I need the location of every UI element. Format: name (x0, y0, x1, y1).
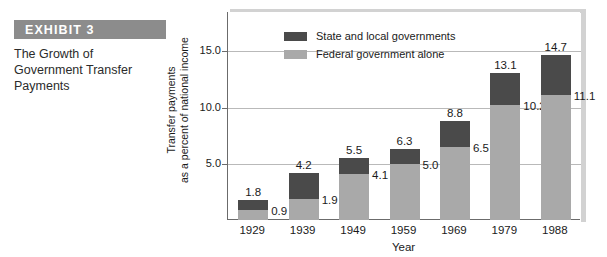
bar-total-label: 1.8 (245, 186, 261, 198)
bar-total-label: 6.3 (397, 135, 413, 147)
bar-segment-federal (490, 105, 520, 220)
bar-segment-state-local (339, 158, 369, 174)
y-axis-title: Transfer payments as a percent of nation… (176, 40, 177, 180)
bar-federal-label: 1.9 (322, 194, 338, 206)
bar-federal-label: 5.0 (423, 159, 439, 171)
bar-group: 8.86.5 (440, 121, 470, 220)
x-axis-tick-labels: 1929193919491959196919791988 (227, 224, 580, 240)
bar-total-label: 8.8 (447, 107, 463, 119)
panel-shadow-right (581, 9, 586, 222)
bar-segment-state-local (490, 73, 520, 106)
bar-group: 4.21.9 (289, 173, 319, 220)
x-axis-tick-label: 1988 (542, 224, 568, 236)
y-axis-tick-label: 5.0 (206, 157, 221, 169)
bar-federal-label: 6.5 (473, 142, 489, 154)
exhibit-caption-block: EXHIBIT 3 The Growth of Government Trans… (14, 20, 184, 94)
bar-segment-federal (238, 210, 268, 220)
bar-federal-label: 0.9 (271, 205, 287, 217)
bar-group: 13.110.2 (490, 73, 520, 220)
exhibit-banner: EXHIBIT 3 (14, 20, 166, 39)
x-axis-tick-label: 1979 (492, 224, 518, 236)
exhibit-caption-text: The Growth of Government Transfer Paymen… (14, 46, 184, 94)
y-axis-tick-label: 10.0 (200, 101, 221, 113)
bar-segment-state-local (238, 200, 268, 210)
caption-line-1: The Growth of (14, 46, 184, 62)
bar-group: 14.711.1 (541, 55, 571, 220)
y-axis-title-line-1: Transfer payments (164, 37, 177, 183)
bar-segment-federal (339, 174, 369, 220)
x-axis-tick-label: 1949 (340, 224, 366, 236)
exhibit-figure: EXHIBIT 3 The Growth of Government Trans… (0, 0, 607, 257)
bar-segment-federal (541, 95, 571, 220)
bar-segment-state-local (541, 55, 571, 95)
bar-segment-state-local (390, 149, 420, 164)
bar-group: 1.80.9 (238, 200, 268, 220)
x-axis-title: Year (227, 241, 580, 253)
bar-federal-label: 11.1 (574, 90, 596, 102)
bar-segment-state-local (289, 173, 319, 199)
x-axis-tick-label: 1969 (441, 224, 467, 236)
chart-plot-area: State and local governments Federal gove… (227, 12, 580, 220)
y-axis-tick-label: 15.0 (200, 44, 221, 56)
bars-layer: 1.80.94.21.95.54.16.35.08.86.513.110.214… (228, 12, 581, 220)
bar-segment-federal (390, 164, 420, 220)
x-axis-tick-label: 1959 (391, 224, 417, 236)
bar-segment-federal (440, 147, 470, 220)
x-axis-tick-label: 1939 (290, 224, 316, 236)
caption-line-3: Payments (14, 78, 184, 94)
exhibit-banner-label: EXHIBIT 3 (25, 23, 95, 37)
bar-total-label: 5.5 (346, 144, 362, 156)
bar-total-label: 13.1 (494, 59, 516, 71)
y-axis-tick-labels: 5.010.015.0 (188, 12, 221, 220)
bar-segment-state-local (440, 121, 470, 147)
x-axis-tick-label: 1929 (239, 224, 265, 236)
bar-total-label: 14.7 (545, 41, 567, 53)
bar-total-label: 4.2 (296, 159, 312, 171)
bar-group: 5.54.1 (339, 158, 369, 220)
bar-segment-federal (289, 199, 319, 220)
caption-line-2: Government Transfer (14, 62, 184, 78)
bar-group: 6.35.0 (390, 149, 420, 220)
bar-federal-label: 4.1 (372, 169, 388, 181)
